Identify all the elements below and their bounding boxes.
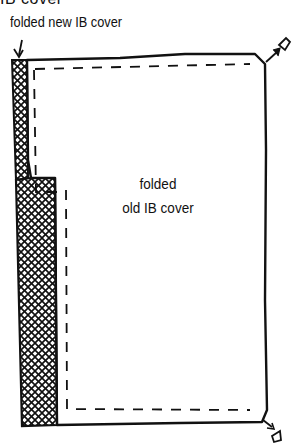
diagram-canvas (0, 0, 297, 445)
old-cover-outline (27, 54, 267, 425)
arrow-up-right-icon (266, 38, 290, 62)
new-cover-strip-upper (12, 60, 28, 180)
fold-line-dashed (34, 64, 250, 410)
arrow-down-right-icon (263, 420, 281, 442)
new-cover-strip-lower (16, 178, 57, 426)
arrow-down-icon (14, 40, 23, 57)
